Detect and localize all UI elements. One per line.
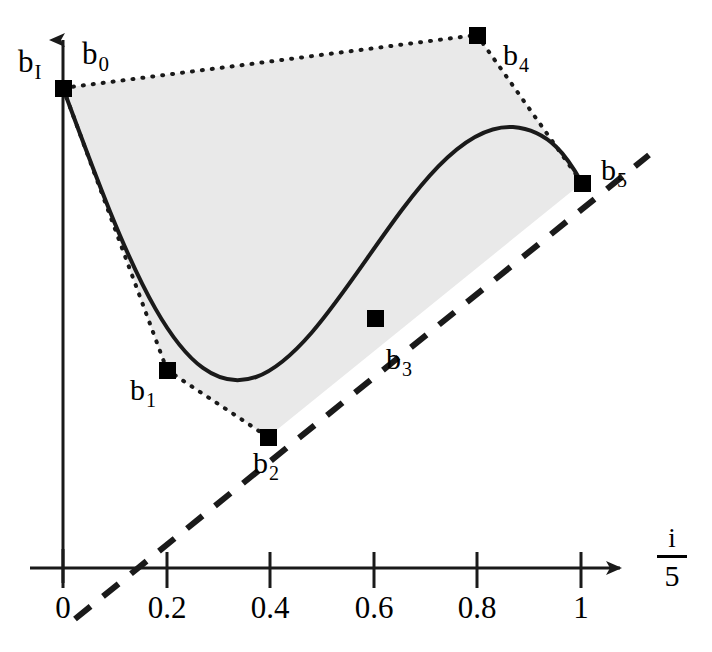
y-axis-label: b0 bbox=[82, 38, 108, 69]
square-marker-b5 bbox=[574, 175, 591, 192]
point-label-b5: b5 bbox=[601, 155, 626, 185]
x-axis-label-numerator: i bbox=[652, 525, 692, 553]
x-tick-label-0.4: 0.4 bbox=[240, 592, 300, 623]
square-marker-b4 bbox=[469, 27, 486, 44]
point-label-b3-subscript: 3 bbox=[402, 358, 412, 380]
y-axis-origin-label: bI bbox=[18, 46, 41, 77]
point-label-b1-subscript: 1 bbox=[146, 389, 156, 411]
square-marker-b3 bbox=[367, 310, 384, 327]
y-axis-label-text: b bbox=[82, 36, 98, 71]
x-tick-label-1: 1 bbox=[566, 592, 596, 623]
point-label-b2: b2 bbox=[253, 448, 278, 478]
point-label-b5-text: b bbox=[601, 153, 616, 186]
square-marker-b1 bbox=[159, 362, 176, 379]
x-tick-label-0.2: 0.2 bbox=[137, 592, 197, 623]
point-label-b1-text: b bbox=[130, 373, 145, 406]
y-axis-origin-label-text: b bbox=[18, 44, 34, 79]
x-tick-label-0.6: 0.6 bbox=[344, 592, 404, 623]
point-label-b4-subscript: 4 bbox=[519, 54, 529, 76]
y-axis-origin-label-subscript: I bbox=[35, 60, 42, 84]
x-axis-label-denominator: 5 bbox=[652, 561, 692, 591]
point-label-b5-subscript: 5 bbox=[617, 169, 627, 191]
point-label-b3: b3 bbox=[386, 344, 411, 374]
point-label-b4-text: b bbox=[503, 38, 518, 71]
point-label-b2-text: b bbox=[253, 446, 268, 479]
square-marker-b2 bbox=[260, 429, 277, 446]
point-label-b1: b1 bbox=[130, 375, 155, 405]
x-axis-label-fraction: i 5 bbox=[652, 525, 692, 591]
point-label-b2-subscript: 2 bbox=[269, 462, 279, 484]
x-tick-label-0.8: 0.8 bbox=[447, 592, 507, 623]
fraction-bar-icon bbox=[657, 555, 687, 558]
plot-canvas bbox=[0, 0, 712, 652]
square-marker-b0 bbox=[55, 80, 72, 97]
bezier-control-polygon-figure: bI b0 b1 b2 b3 b4 b5 0 0.2 0.4 0.6 0.8 1… bbox=[0, 0, 712, 652]
point-label-b4: b4 bbox=[503, 40, 528, 70]
point-label-b3-text: b bbox=[386, 342, 401, 375]
y-axis-label-subscript: 0 bbox=[99, 52, 110, 76]
x-tick-label-0: 0 bbox=[48, 592, 78, 623]
